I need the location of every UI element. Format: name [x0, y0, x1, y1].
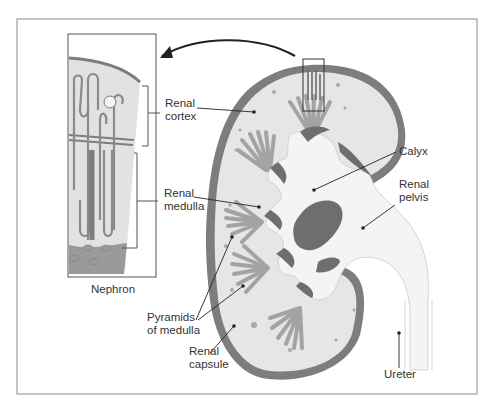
inset-caption-nephron: Nephron — [91, 283, 135, 296]
label-ureter: Ureter — [384, 368, 416, 381]
kidney-illustration — [0, 0, 492, 413]
label-renal-capsule: Renal capsule — [189, 345, 229, 371]
label-calyx: Calyx — [399, 145, 428, 158]
label-pyramids-of-medulla: Pyramids of medulla — [147, 311, 200, 337]
nephron-inset — [68, 34, 156, 277]
label-renal-medulla: Renal medulla — [164, 187, 204, 213]
label-renal-pelvis: Renal pelvis — [399, 178, 429, 204]
label-renal-cortex: Renal cortex — [165, 97, 196, 123]
